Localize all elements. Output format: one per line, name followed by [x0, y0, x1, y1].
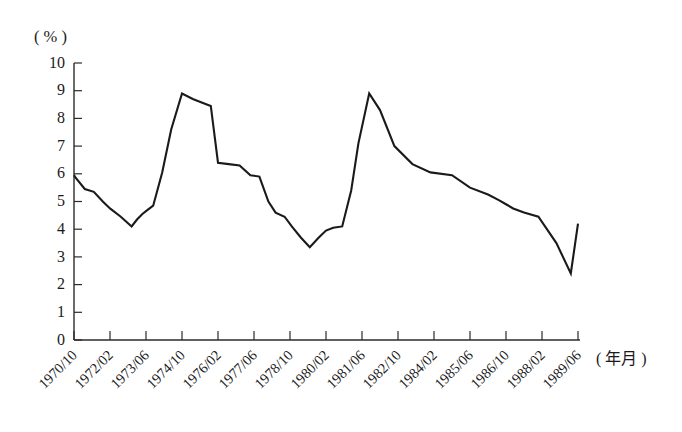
- y-tick-label: 7: [57, 137, 65, 154]
- x-tick-label: 1977/06: [215, 347, 260, 392]
- y-tick-label: 8: [57, 109, 65, 126]
- x-tick-label: 1974/10: [143, 347, 188, 392]
- chart-canvas: ( % ) 012345678910 1970/101972/021973/06…: [0, 0, 682, 432]
- x-tick-label: 1978/10: [251, 347, 296, 392]
- x-tick-label: 1980/02: [287, 347, 332, 392]
- x-axis-title-group: ( 年月 ): [596, 350, 647, 368]
- x-tick-label: 1976/02: [179, 347, 224, 392]
- y-tick-label: 6: [57, 164, 65, 181]
- y-tick-label: 10: [49, 54, 65, 71]
- x-axis-title: ( 年月 ): [596, 350, 647, 368]
- y-tick-label: 9: [57, 81, 65, 98]
- y-tick-label-group: 012345678910: [49, 54, 65, 348]
- x-tick-label: 1988/02: [503, 347, 548, 392]
- x-tick-label: 1982/10: [359, 347, 404, 392]
- x-tick-label: 1981/06: [323, 347, 368, 392]
- x-tick-label: 1985/06: [431, 347, 476, 392]
- y-tick-group: [74, 63, 82, 340]
- y-axis-unit-label-group: ( % ): [34, 27, 67, 46]
- x-tick-label: 1989/06: [539, 347, 584, 392]
- x-tick-label: 1986/10: [467, 347, 512, 392]
- x-tick-label-group: 1970/101972/021973/061974/101976/021977/…: [35, 347, 584, 392]
- y-tick-label: 4: [57, 220, 65, 237]
- y-tick-label: 5: [57, 192, 65, 209]
- series-line-unemployment: [74, 93, 578, 273]
- y-tick-label: 1: [57, 303, 65, 320]
- data-series-group: [74, 93, 578, 273]
- y-axis-unit-label: ( % ): [34, 27, 67, 46]
- x-tick-label: 1972/02: [71, 347, 116, 392]
- line-chart: ( % ) 012345678910 1970/101972/021973/06…: [0, 0, 682, 432]
- x-tick-group: [74, 331, 578, 340]
- x-tick-label: 1973/06: [107, 347, 152, 392]
- y-tick-label: 2: [57, 275, 65, 292]
- y-tick-label: 3: [57, 248, 65, 265]
- x-tick-label: 1984/02: [395, 347, 440, 392]
- x-tick-label: 1970/10: [35, 347, 80, 392]
- y-tick-label: 0: [57, 331, 65, 348]
